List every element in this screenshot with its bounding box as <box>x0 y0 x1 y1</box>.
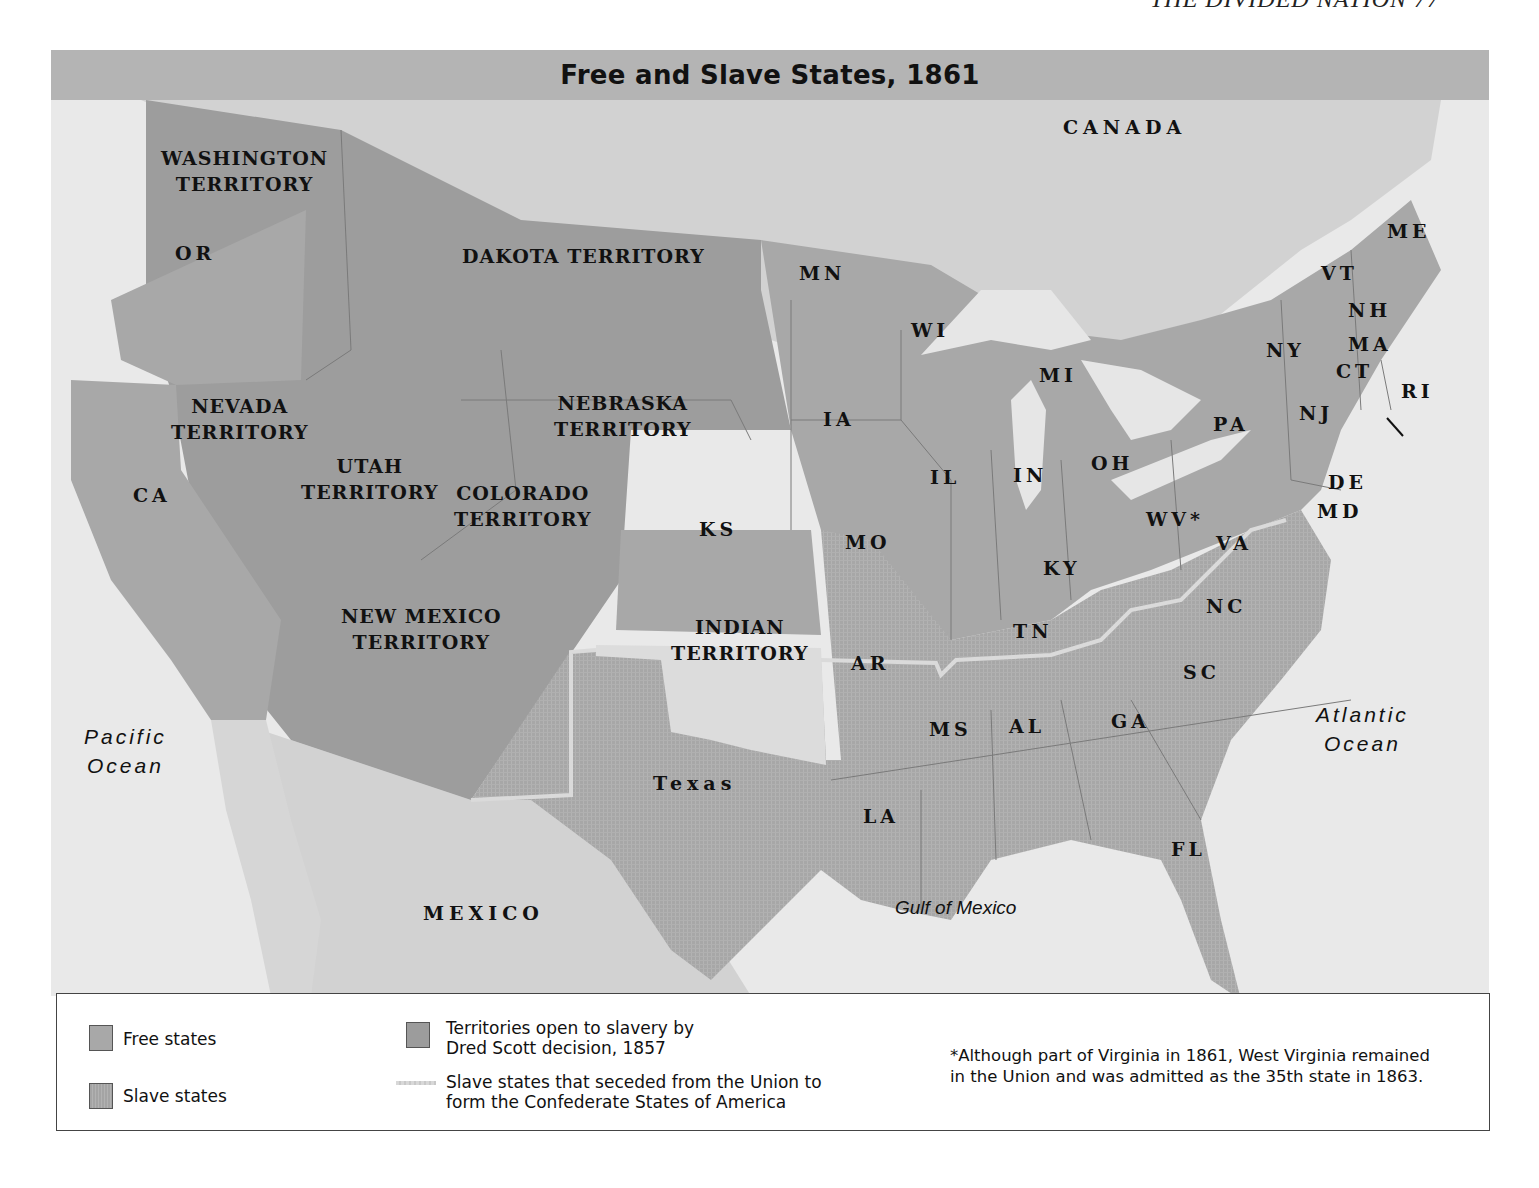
label-dakota-territory: DAKOTA TERRITORY <box>462 243 705 269</box>
legend-swatch-free-states <box>89 1025 113 1051</box>
map-legend: Free states Slave states Territories ope… <box>56 993 1490 1131</box>
running-head: THE DIVIDED NATION 77 <box>1150 0 1440 13</box>
label-ri: RI <box>1401 378 1434 404</box>
label-ca: CA <box>133 482 171 508</box>
label-wi: WI <box>911 317 949 343</box>
legend-swatch-territories <box>406 1022 430 1048</box>
label-mi: MI <box>1039 362 1077 388</box>
label-ma: MA <box>1348 331 1392 357</box>
label-canada: CANADA <box>1063 114 1186 140</box>
label-nc: NC <box>1206 593 1247 619</box>
label-ct: CT <box>1336 358 1373 384</box>
label-ky: KY <box>1043 555 1081 581</box>
label-oh: OH <box>1091 450 1134 476</box>
label-colorado-territory: COLORADO TERRITORY <box>454 480 592 532</box>
label-pa: PA <box>1213 411 1249 437</box>
label-me: ME <box>1387 218 1431 244</box>
label-pacific-ocean: Pacific Ocean <box>84 722 167 780</box>
label-wv: WV* <box>1146 506 1204 532</box>
label-nh: NH <box>1348 297 1391 323</box>
label-tn: TN <box>1013 618 1053 644</box>
map-title-bar: Free and Slave States, 1861 <box>51 50 1489 100</box>
map-frame: Free and Slave States, 1861 <box>51 50 1489 996</box>
label-atlantic-ocean: Atlantic Ocean <box>1316 700 1409 758</box>
label-or: OR <box>175 240 215 266</box>
label-mo: MO <box>845 529 891 555</box>
label-ks: KS <box>699 516 737 542</box>
label-ny: NY <box>1266 337 1305 363</box>
label-texas: Texas <box>653 770 736 796</box>
map-graphic <box>51 100 1489 996</box>
label-il: IL <box>930 464 960 490</box>
legend-label-secession: Slave states that seceded from the Union… <box>446 1072 822 1112</box>
map-title: Free and Slave States, 1861 <box>560 60 979 90</box>
ri-leader-line <box>1387 418 1403 436</box>
label-fl: FL <box>1171 836 1206 862</box>
label-ga: GA <box>1111 708 1150 734</box>
label-de: DE <box>1328 469 1367 495</box>
label-washington-territory: WASHINGTON TERRITORY <box>161 145 328 197</box>
label-in: IN <box>1013 462 1047 488</box>
label-va: VA <box>1216 530 1252 556</box>
label-mn: MN <box>799 260 845 286</box>
label-ar: AR <box>851 650 890 676</box>
legend-swatch-slave-states <box>89 1083 113 1109</box>
legend-secession-line-swatch <box>396 1081 436 1085</box>
label-sc: SC <box>1183 659 1220 685</box>
label-gulf-of-mexico: Gulf of Mexico <box>895 893 1016 922</box>
label-vt: VT <box>1321 260 1358 286</box>
label-new-mexico-territory: NEW MEXICO TERRITORY <box>341 603 502 655</box>
label-al: AL <box>1009 713 1045 739</box>
label-nj: NJ <box>1299 400 1333 426</box>
legend-label-slave-states: Slave states <box>123 1086 227 1106</box>
label-la: LA <box>863 803 899 829</box>
label-indian-territory: INDIAN TERRITORY <box>671 614 809 666</box>
label-utah-territory: UTAH TERRITORY <box>301 453 439 505</box>
legend-label-territories: Territories open to slavery by Dred Scot… <box>446 1018 694 1058</box>
legend-footnote: *Although part of Virginia in 1861, West… <box>950 1045 1430 1087</box>
label-mexico: MEXICO <box>423 900 544 926</box>
label-nebraska-territory: NEBRASKA TERRITORY <box>554 390 692 442</box>
label-ia: IA <box>823 406 855 432</box>
label-md: MD <box>1317 498 1363 524</box>
label-ms: MS <box>929 716 972 742</box>
label-nevada-territory: NEVADA TERRITORY <box>171 393 309 445</box>
legend-label-free-states: Free states <box>123 1029 216 1049</box>
